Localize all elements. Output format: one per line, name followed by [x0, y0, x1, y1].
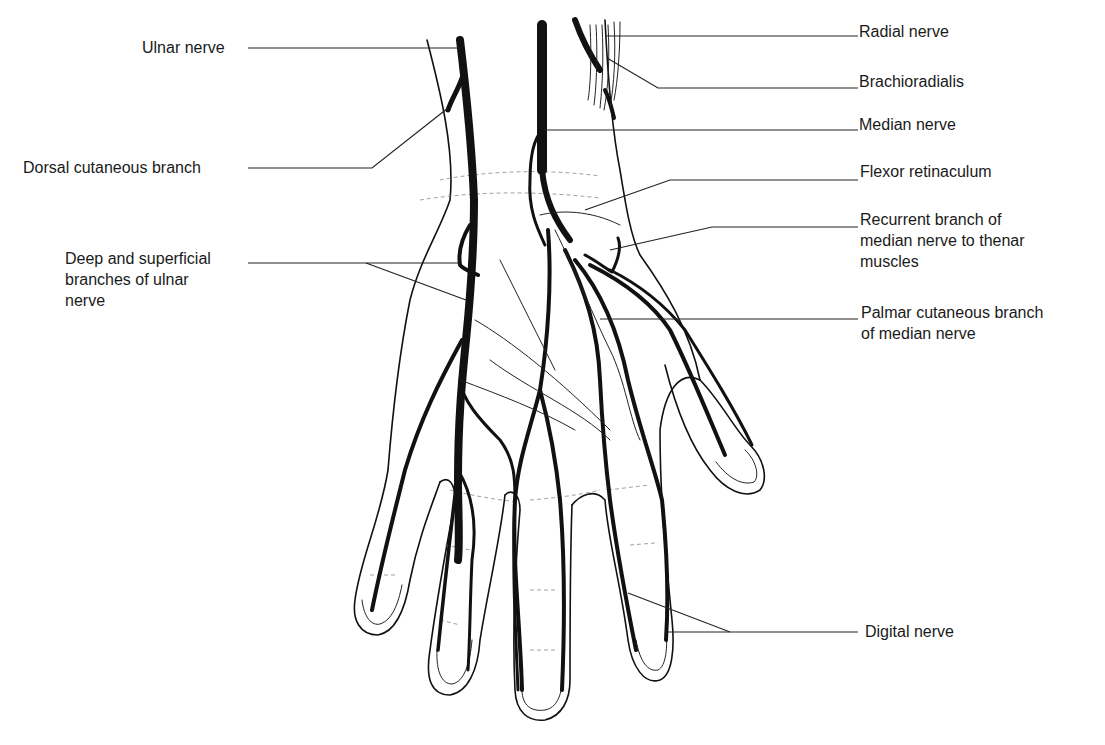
hand-outline	[354, 20, 764, 720]
label-recurrent-branch-median: Recurrent branch of median nerve to then…	[860, 209, 1025, 272]
label-radial-nerve: Radial nerve	[859, 21, 949, 42]
label-brachioradialis: Brachioradialis	[859, 71, 964, 92]
hand-nerve-diagram: Ulnar nerve Dorsal cutaneous branch Deep…	[0, 0, 1105, 745]
label-median-nerve: Median nerve	[859, 114, 956, 135]
median-nerve-drawing	[460, 25, 752, 690]
label-dorsal-cutaneous-branch: Dorsal cutaneous branch	[23, 157, 201, 178]
label-digital-nerve: Digital nerve	[865, 621, 954, 642]
label-palmar-cutaneous-branch: Palmar cutaneous branch of median nerve	[861, 302, 1043, 344]
label-flexor-retinaculum: Flexor retinaculum	[860, 161, 992, 182]
label-ulnar-nerve: Ulnar nerve	[142, 37, 225, 58]
label-deep-superficial-branches-ulnar: Deep and superficial branches of ulnar n…	[65, 248, 211, 311]
leader-lines	[248, 36, 858, 632]
radial-nerve-drawing	[575, 20, 620, 118]
